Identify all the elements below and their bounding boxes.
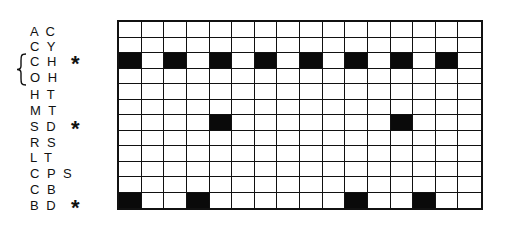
grid-cell: [300, 115, 323, 131]
grid-cell: [458, 22, 481, 38]
grid-cell: [345, 146, 368, 162]
grid-cell: [458, 131, 481, 147]
grid-cell: [436, 162, 459, 178]
grid-cell: [391, 100, 414, 116]
grid-cell: [277, 69, 300, 85]
grid-cell: [210, 100, 233, 116]
grid-cell: [368, 69, 391, 85]
grid-cell: [300, 38, 323, 54]
grid-cell: [436, 84, 459, 100]
grid-cell: [300, 177, 323, 193]
grid-cell: [187, 53, 210, 69]
grid-cell-filled: [255, 53, 278, 69]
grid-cell: [210, 22, 233, 38]
grid-cell: [255, 38, 278, 54]
grid-cell: [210, 162, 233, 178]
grid-cell: [323, 69, 346, 85]
grid-cell: [277, 53, 300, 69]
grid-cell: [232, 69, 255, 85]
row-label: C Y: [30, 39, 57, 55]
grid-cell: [323, 193, 346, 209]
row-label: M T: [30, 103, 58, 119]
grid-cell: [255, 115, 278, 131]
grid-cell: [187, 100, 210, 116]
grid-cell: [187, 131, 210, 147]
grid-cell: [164, 115, 187, 131]
grid-cell: [413, 115, 436, 131]
grid-cell: [300, 69, 323, 85]
grid-cell: [413, 69, 436, 85]
grid-cell: [368, 146, 391, 162]
asterisk-icon: *: [71, 56, 80, 72]
row-label: R S: [30, 135, 58, 151]
grid-cell-filled: [300, 53, 323, 69]
grid-cell: [345, 84, 368, 100]
grid-cell: [277, 146, 300, 162]
grid-cell: [413, 162, 436, 178]
row-labels: A CC YC H*O HH TM TS D*R SL TC P SC BB D…: [0, 0, 110, 231]
grid-cell: [142, 131, 165, 147]
grid-cell: [142, 162, 165, 178]
grid-cell: [277, 131, 300, 147]
grid-cell: [458, 100, 481, 116]
grid-cell: [368, 131, 391, 147]
grid-cell: [232, 131, 255, 147]
grid-cell: [142, 84, 165, 100]
row-label: C H: [30, 54, 58, 70]
grid-cell: [232, 162, 255, 178]
grid-cell: [210, 146, 233, 162]
grid-cell: [232, 193, 255, 209]
grid-cell: [255, 22, 278, 38]
grid-cell: [300, 22, 323, 38]
grid-cell: [458, 193, 481, 209]
grid-cell: [300, 193, 323, 209]
grid-cell: [187, 177, 210, 193]
grid-cell: [413, 146, 436, 162]
grid-cell: [323, 131, 346, 147]
grid-cell: [458, 69, 481, 85]
grid-cell: [142, 22, 165, 38]
grid-cell: [323, 177, 346, 193]
grid-cell: [142, 115, 165, 131]
grid-cell: [232, 177, 255, 193]
grid-cell: [391, 146, 414, 162]
grid-cell: [119, 115, 142, 131]
row-label: L T: [30, 150, 54, 166]
grid-cell-filled: [391, 115, 414, 131]
grid-cell-filled: [345, 53, 368, 69]
grid-cell: [119, 22, 142, 38]
grid-cell: [232, 100, 255, 116]
grid-cell-filled: [187, 193, 210, 209]
grid-cell: [255, 177, 278, 193]
grid-cell: [142, 193, 165, 209]
grid-cell: [458, 146, 481, 162]
grid-cell: [119, 146, 142, 162]
grid-cell: [391, 38, 414, 54]
asterisk-icon: *: [71, 200, 80, 216]
grid-cell: [345, 177, 368, 193]
grid-cell: [119, 84, 142, 100]
row-label: O H: [30, 70, 59, 86]
grid-cell: [210, 38, 233, 54]
grid-cell: [391, 131, 414, 147]
grid-cell: [232, 22, 255, 38]
grid-cell: [142, 177, 165, 193]
grid-cell: [277, 162, 300, 178]
grid-cell: [255, 193, 278, 209]
grid-cell: [323, 53, 346, 69]
grid-cell: [436, 100, 459, 116]
row-label: H T: [30, 87, 57, 103]
grid-cell: [368, 162, 391, 178]
grid-cell: [300, 162, 323, 178]
grid-cell: [164, 146, 187, 162]
grid-cell: [323, 146, 346, 162]
grid-cell-filled: [119, 193, 142, 209]
grid-cell: [391, 193, 414, 209]
grid-cell: [436, 177, 459, 193]
grid-cell: [458, 177, 481, 193]
grid-cell: [164, 193, 187, 209]
grid-cell: [210, 84, 233, 100]
grid-cell-filled: [210, 53, 233, 69]
grid-cell: [142, 69, 165, 85]
row-label: C B: [30, 182, 58, 198]
